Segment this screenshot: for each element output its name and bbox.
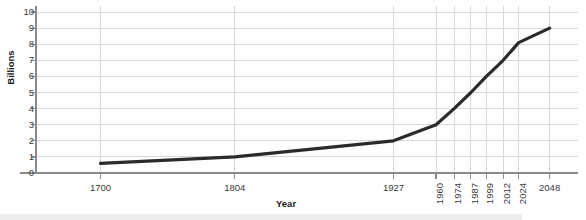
x-tick-label: 1974 — [453, 183, 463, 204]
x-axis-tick-labels: 1700180419271960197419871999201220242048 — [0, 0, 586, 220]
x-axis-title: Year — [276, 198, 296, 209]
x-tick-label: 2012 — [502, 183, 512, 204]
x-tick-label: 1804 — [224, 183, 245, 193]
x-tick-label: 1999 — [486, 183, 496, 204]
population-line-chart: 012345678910 170018041927196019741987199… — [0, 0, 586, 220]
x-tick-label: 1987 — [470, 183, 480, 204]
bottom-edge-band — [0, 214, 522, 220]
x-tick-label: 1960 — [435, 183, 445, 204]
x-tick-label: 1927 — [383, 183, 404, 193]
x-tick-label: 2024 — [518, 183, 528, 204]
x-tick-label: 1700 — [90, 183, 111, 193]
x-tick-label: 2048 — [539, 183, 560, 193]
y-axis-title: Billions — [5, 38, 16, 98]
